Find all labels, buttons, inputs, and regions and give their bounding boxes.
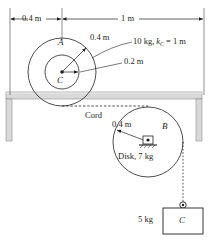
beam-left-leg — [6, 99, 12, 141]
pulley-center-label: C — [57, 76, 63, 85]
dim-label-left: 0.4 m — [22, 14, 41, 23]
pulley-mass-text: 10 kg, — [133, 36, 154, 46]
leader-inner-radius — [80, 63, 122, 72]
pulley-outer-radius-label: 0.4 m — [90, 33, 109, 42]
disk-b — [113, 107, 183, 177]
pulley-outer-radius-arrow — [63, 48, 86, 71]
block-mass-label: 5 kg — [138, 215, 153, 224]
beam-right-leg — [196, 99, 202, 141]
block-hook-pin — [182, 204, 184, 206]
pulley-inner-radius-label: 0.2 m — [124, 57, 143, 66]
pulley-label-a: A — [58, 38, 64, 47]
block-label-c: C — [179, 216, 185, 225]
cord-label: Cord — [85, 111, 102, 120]
disk-spec-label: Disk, 7 kg — [118, 152, 153, 161]
mechanics-figure: 0.4 m 1 m A 0.4 m 0.2 m 10 kg,kC= 1 m C … — [0, 0, 213, 241]
pulley-k-value: = 1 m — [164, 36, 186, 46]
disk-radius-label: 0.4 m — [112, 120, 131, 129]
disk-radius-arrow — [117, 130, 146, 141]
disk-label-b: B — [162, 122, 168, 131]
pulley-spec-label: 10 kg,kC= 1 m — [133, 37, 186, 47]
dim-label-right: 1 m — [121, 14, 134, 23]
disk-center-point — [146, 138, 149, 141]
beam-bracket — [6, 92, 202, 141]
